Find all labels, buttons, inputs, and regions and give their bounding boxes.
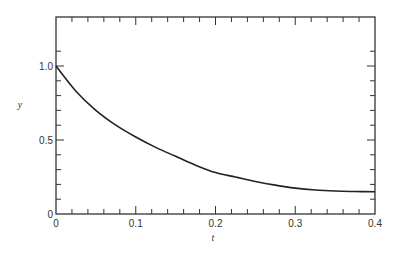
x-tick-label: 0.2 [209,218,223,229]
x-tick-label: 0.4 [368,218,382,229]
x-tick-label: 0.3 [288,218,302,229]
tick-labels: 00.10.20.30.400.51.0 [39,61,382,230]
y-tick-label: 0.5 [39,135,53,146]
data-line [56,66,375,192]
y-axis-label: y [17,99,23,110]
line-chart: 00.10.20.30.400.51.0 t y [0,0,395,253]
axis-ticks [56,17,375,214]
x-tick-label: 0.1 [129,218,143,229]
y-tick-label: 1.0 [39,61,53,72]
x-axis-label: t [212,232,215,243]
x-tick-label: 0 [53,218,59,229]
y-tick-label: 0 [47,209,53,220]
plot-frame [56,17,375,214]
